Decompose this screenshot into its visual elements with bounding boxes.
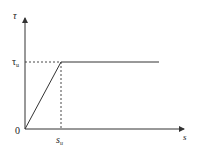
- s-u-label: su: [56, 135, 63, 146]
- diagram-canvas: [0, 0, 197, 153]
- constitutive-curve: [25, 62, 159, 129]
- tau-u-label: τu: [12, 57, 19, 68]
- x-axis-label: s: [183, 133, 187, 142]
- y-axis-label: τ: [13, 11, 17, 21]
- origin-label: 0: [15, 126, 20, 136]
